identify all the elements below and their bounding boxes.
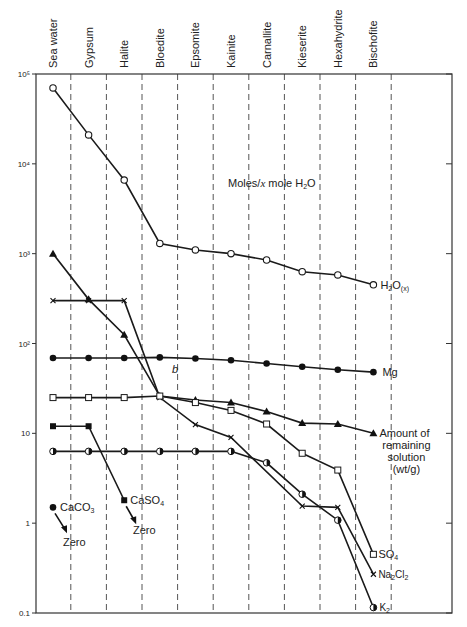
data-point [263,257,269,263]
data-point [50,504,57,511]
data-point [335,366,342,373]
column-label: Hexahydrite [332,9,344,68]
data-point [371,572,376,577]
data-point [49,250,57,257]
data-point [85,132,91,138]
data-point [50,355,57,362]
column-label: Epsomite [189,22,201,68]
column-label: Carnallite [261,22,273,68]
data-point [121,355,128,362]
column-label: Gypsum [83,27,95,68]
data-point [85,448,92,455]
y-tick-label: 10⁵ [18,70,30,79]
column-label: Sea water [47,18,59,68]
data-point [192,247,198,253]
data-point [86,395,92,401]
data-point [121,395,127,401]
data-point [299,268,305,274]
data-point [192,400,198,406]
series-label: K2 [379,602,390,614]
series-label: Na2Cl2 [378,569,408,581]
data-point [335,517,342,524]
column-label: Kieserite [296,25,308,68]
data-point [157,354,164,361]
data-point [370,282,376,288]
arrow-head-icon [61,525,67,533]
data-point [370,369,377,376]
data-point [228,250,234,256]
y-tick-label: 1 [26,519,31,528]
data-point [86,423,92,429]
data-point [121,497,127,503]
column-labels: Sea waterGypsumHaliteBloediteEpsomiteKai… [47,9,379,68]
column-label: Bischofite [367,20,379,68]
data-point [228,407,234,413]
data-point [264,421,270,427]
data-point [50,85,56,91]
data-point [157,240,163,246]
chart-annotation-title: Moles/x mole H2O [228,177,316,190]
series-label: Mg [382,366,397,378]
data-point [50,448,57,455]
data-point [228,357,235,364]
series-so4: SO4 [50,393,398,561]
annotation-zero-caco3: Zero [63,536,86,548]
series-label: SO4 [378,548,398,561]
annotation-b: b [172,363,178,375]
data-point [263,459,270,466]
series-caco3: CaCO3 [50,501,95,533]
column-label: Halite [118,40,130,68]
plot-frame [36,74,452,613]
annotation-zero-caso4: Zero [133,524,156,536]
data-point [192,448,199,455]
evaporation-sequence-chart: Sea waterGypsumHaliteBloediteEpsomiteKai… [0,0,467,627]
series-label-line: (wt/g) [393,463,421,475]
series-na2cl2: Na2Cl2 [51,298,409,581]
data-point [299,364,306,371]
data-point [50,395,56,401]
data-point [157,393,163,399]
data-point [157,448,164,455]
series-label: H2O(x) [380,279,409,293]
data-point [228,448,235,455]
annotations: Moles/x mole H2O b Zero Zero [63,177,316,548]
data-point [192,355,199,362]
series-line [53,426,124,500]
data-point [370,604,377,611]
data-point [335,272,341,278]
data-point [85,355,92,362]
data-point [370,551,376,557]
y-tick-label: 10⁴ [18,160,31,169]
series-label-line: remaining [382,439,430,451]
data-point [299,450,305,456]
y-tick-label: 0.1 [19,609,31,618]
series-label: CaCO3 [60,501,95,514]
series-mg: Mg [50,354,398,378]
series-label-line: solution [387,451,425,463]
y-tick-label: 10² [18,340,30,349]
series-label-line: Amount of [379,427,430,439]
column-label: Bloedite [154,28,166,68]
data-point [299,491,306,498]
data-point [121,448,128,455]
data-point [121,177,127,183]
column-label: Kainite [225,34,237,68]
y-tick-label: 10³ [18,250,30,259]
y-tick-label: 10 [21,429,30,438]
data-point [335,467,341,473]
data-point [50,423,56,429]
data-point [263,360,270,367]
series-label: CaSO4 [130,494,164,507]
